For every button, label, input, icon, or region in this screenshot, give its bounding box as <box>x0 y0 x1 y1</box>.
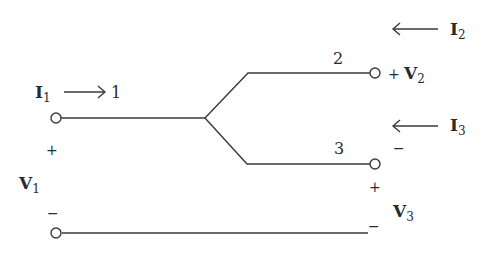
v3-minus-sign: − <box>368 219 380 233</box>
v3-plus-sign: + <box>369 180 381 194</box>
voltage-v1-label: V1 <box>19 175 40 195</box>
three-port-network-diagram: I1 1 + V1 − 2 + V2 I2 I3 3 − + V3 − <box>0 0 488 261</box>
port3-terminal <box>370 159 380 169</box>
v1-plus-sign: + <box>46 143 58 157</box>
v2-minus-sign: − <box>393 141 405 155</box>
current-i1-label: I1 <box>35 84 51 104</box>
port2-terminal <box>370 68 380 78</box>
v1-minus-sign: − <box>47 206 59 220</box>
port3-branch <box>205 118 370 164</box>
voltage-v2-label: V2 <box>404 65 425 85</box>
port2-number: 2 <box>333 51 343 67</box>
circuit-wiring <box>0 0 488 261</box>
current-i2-label: I2 <box>450 21 466 41</box>
port3-number: 3 <box>334 141 344 157</box>
port1-return-terminal <box>51 228 61 238</box>
current-i3-label: I3 <box>450 117 466 137</box>
port2-branch <box>205 73 370 118</box>
voltage-v3-label: V3 <box>393 203 414 223</box>
port1-number: 1 <box>111 85 121 101</box>
port1-terminal <box>51 113 61 123</box>
v2-plus-sign: + <box>388 67 400 81</box>
